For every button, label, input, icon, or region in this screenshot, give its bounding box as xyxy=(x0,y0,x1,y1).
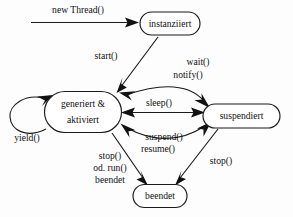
transition-notify-label: notify() xyxy=(173,69,202,81)
state-generiert-aktiviert-label-line2: aktiviert xyxy=(67,114,99,125)
transition-wait-notify-arrowhead-left xyxy=(119,91,136,100)
transition-start-label: start() xyxy=(95,50,118,62)
transition-yield-label: yield() xyxy=(14,132,40,144)
transition-suspend-label: suspend() xyxy=(145,131,182,143)
transition-stop-or-run-arrowhead xyxy=(137,171,149,186)
transition-resume-label: resume() xyxy=(141,143,175,155)
state-beendet[interactable]: beendet xyxy=(133,185,187,208)
transition-sleep xyxy=(121,107,205,117)
transition-stop-suspended-line xyxy=(180,129,218,178)
transition-start xyxy=(117,37,159,93)
state-generiert-aktiviert-label-line1: generiert & xyxy=(61,98,105,109)
transition-suspend-resume-arrowhead-left xyxy=(121,124,136,138)
transition-sleep-label: sleep() xyxy=(146,97,172,109)
state-suspendiert[interactable]: suspendiert xyxy=(203,104,280,128)
transition-stop-or-run-label-line2: od. run() xyxy=(93,162,127,174)
state-instanziiert[interactable]: instanziiert xyxy=(140,12,200,35)
transition-start-line xyxy=(122,37,159,86)
transition-stop-suspended-label: stop() xyxy=(210,155,232,167)
transition-stop-or-run-label-line1: stop() xyxy=(99,150,121,162)
state-beendet-label: beendet xyxy=(145,190,175,201)
transition-stop-or-run-label-line3: beendet xyxy=(95,174,125,185)
transition-yield-loop xyxy=(10,97,48,133)
transition-wait-label: wait() xyxy=(187,56,210,68)
thread-state-diagram: instanziiert generiert & aktiviert suspe… xyxy=(0,0,293,217)
transition-new-thread xyxy=(31,17,139,27)
state-suspendiert-label: suspendiert xyxy=(220,110,264,121)
state-diagram-canvas: instanziiert generiert & aktiviert suspe… xyxy=(0,0,293,217)
transition-start-arrowhead xyxy=(117,78,127,94)
state-instanziiert-label: instanziiert xyxy=(149,18,192,29)
state-generiert-aktiviert[interactable]: generiert & aktiviert xyxy=(45,92,122,133)
transition-new-thread-label: new Thread() xyxy=(52,4,104,16)
